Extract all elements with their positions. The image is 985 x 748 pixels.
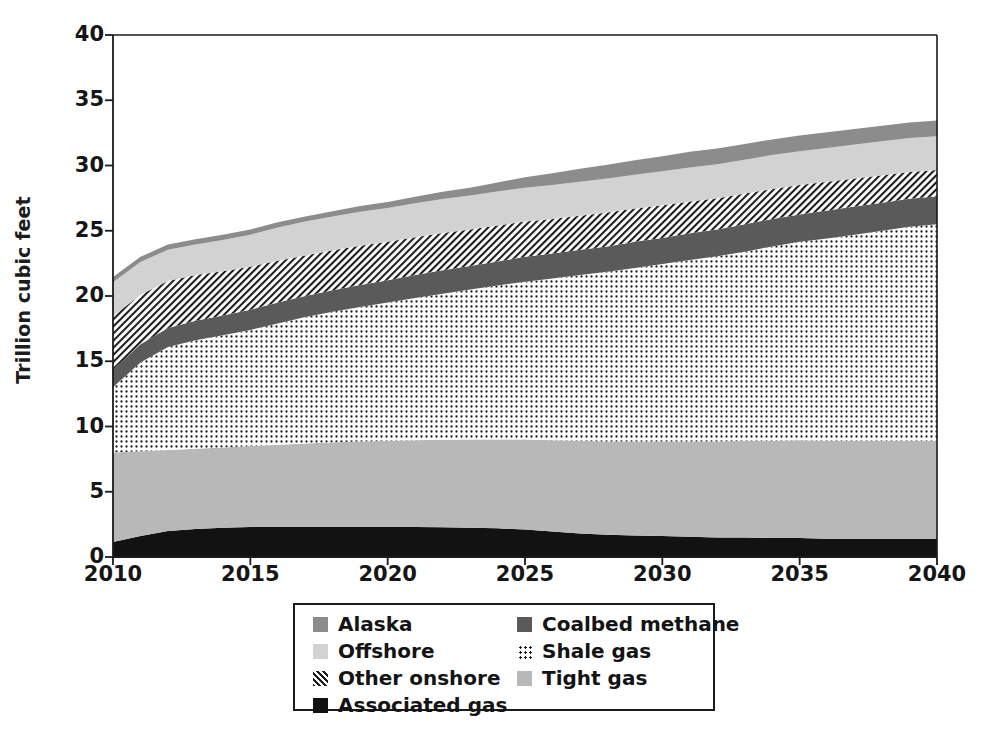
chart-legend: AlaskaOffshoreOther onshoreAssociated ga… xyxy=(293,603,715,711)
legend-column-right: Coalbed methaneShale gasTight gas xyxy=(517,611,739,692)
square-swatch-icon xyxy=(313,698,328,713)
legend-label: Shale gas xyxy=(542,641,651,661)
square-swatch-icon xyxy=(517,671,532,686)
x-tick-label-2010: 2010 xyxy=(84,562,142,586)
x-tick-label-2035: 2035 xyxy=(770,562,828,586)
legend-label: Associated gas xyxy=(338,695,507,715)
legend-label: Alaska xyxy=(338,614,413,634)
area-series-tight-gas xyxy=(113,440,937,542)
square-swatch-icon xyxy=(313,617,328,632)
x-tick-label-2015: 2015 xyxy=(221,562,279,586)
dot-swatch-icon xyxy=(517,644,532,659)
square-swatch-icon xyxy=(313,644,328,659)
hatch-swatch-icon xyxy=(313,671,328,686)
x-tick-label-2040: 2040 xyxy=(908,562,966,586)
square-swatch-icon xyxy=(517,617,532,632)
x-tick-label-2025: 2025 xyxy=(496,562,554,586)
legend-item-coalbed-methane[interactable]: Coalbed methane xyxy=(517,611,739,637)
x-tick-label-2020: 2020 xyxy=(358,562,416,586)
legend-item-tight-gas[interactable]: Tight gas xyxy=(517,665,739,691)
legend-item-other-onshore[interactable]: Other onshore xyxy=(313,665,507,691)
legend-item-alaska[interactable]: Alaska xyxy=(313,611,507,637)
legend-label: Other onshore xyxy=(338,668,500,688)
legend-item-shale-gas[interactable]: Shale gas xyxy=(517,638,739,664)
legend-item-associated-gas[interactable]: Associated gas xyxy=(313,692,507,718)
legend-label: Tight gas xyxy=(542,668,647,688)
legend-column-left: AlaskaOffshoreOther onshoreAssociated ga… xyxy=(313,611,507,719)
legend-item-offshore[interactable]: Offshore xyxy=(313,638,507,664)
x-tick-label-2030: 2030 xyxy=(633,562,691,586)
legend-label: Offshore xyxy=(338,641,435,661)
legend-label: Coalbed methane xyxy=(542,614,739,634)
chart-figure: Trillion cubic feet 0510152025303540 201… xyxy=(0,0,985,748)
